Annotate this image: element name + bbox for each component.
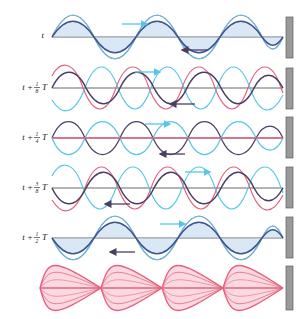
time-label-row-4-denominator: 8: [36, 188, 39, 194]
time-label-row-2-denominator: 8: [36, 88, 39, 94]
time-label-row-5: t +: [22, 232, 33, 242]
standing-wave-figure: t t + 1 8 T t + 1 4 T: [0, 0, 305, 319]
time-label-row-3-denominator: 4: [36, 138, 39, 144]
wall-barrier: [286, 266, 293, 310]
time-label-row-3-numerator: 1: [36, 131, 39, 137]
time-label-row-5-numerator: 1: [36, 231, 39, 237]
time-label-row-5-denominator: 2: [36, 238, 39, 244]
wall-barrier: [286, 68, 293, 109]
time-label-row-4: t +: [22, 182, 33, 192]
time-label-row-4-numerator: 3: [35, 181, 39, 187]
time-label-row-3: t +: [22, 132, 33, 142]
wall-barrier: [286, 167, 293, 208]
wall-barrier: [286, 17, 293, 58]
time-label-row-2: t +: [22, 82, 33, 92]
wall-barrier: [286, 217, 293, 258]
time-label-row-2-numerator: 1: [36, 81, 39, 87]
wall-barrier: [286, 117, 293, 158]
